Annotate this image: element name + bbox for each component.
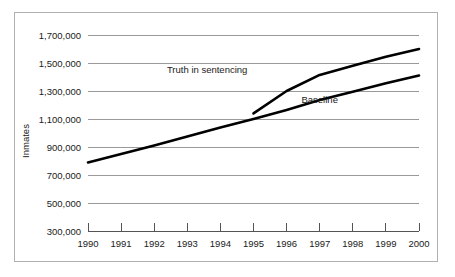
x-tick-label: 1997: [309, 238, 330, 249]
x-tick-label: 1993: [177, 238, 198, 249]
y-tick-label: 1,100,000: [39, 114, 81, 125]
x-tick-label: 1994: [210, 238, 231, 249]
data-series-group: [88, 49, 419, 162]
line-chart: 300,000500,000700,000900,0001,100,0001,3…: [15, 13, 437, 261]
x-tick-label: 1998: [342, 238, 363, 249]
x-tick-label: 1990: [77, 238, 98, 249]
y-tick-label: 1,500,000: [39, 58, 81, 69]
y-tick-label: 1,700,000: [39, 30, 81, 41]
x-axis-group: [88, 223, 419, 231]
y-tick-label: 500,000: [47, 198, 81, 209]
y-axis-title: Inmates: [20, 124, 31, 158]
x-tick-label: 1995: [243, 238, 264, 249]
x-tick-label: 1991: [111, 238, 132, 249]
chart-frame: 300,000500,000700,000900,0001,100,0001,3…: [14, 12, 438, 262]
y-tick-label: 700,000: [47, 170, 81, 181]
x-tick-label: 1996: [276, 238, 297, 249]
y-tick-label: 1,300,000: [39, 86, 81, 97]
chart-figure: 300,000500,000700,000900,0001,100,0001,3…: [0, 0, 455, 277]
x-tick-label: 2000: [408, 238, 429, 249]
series-annotation: Truth in sentencing: [167, 64, 247, 75]
y-tick-label: 900,000: [47, 142, 81, 153]
x-tick-label: 1992: [144, 238, 165, 249]
series-annotations-group: Truth in sentencingBaseline: [167, 64, 338, 105]
y-tick-label: 300,000: [47, 226, 81, 237]
y-axis-tick-labels: 300,000500,000700,000900,0001,100,0001,3…: [39, 30, 81, 237]
x-tick-label: 1999: [375, 238, 396, 249]
series-annotation: Baseline: [301, 94, 337, 105]
x-axis-tick-labels: 1990199119921993199419951996199719981999…: [77, 238, 429, 249]
